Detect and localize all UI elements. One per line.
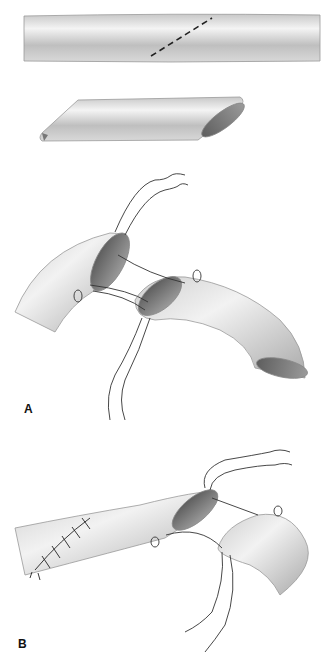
panel-b-right-vessel (218, 514, 308, 595)
panel-a-right-vessel (132, 269, 310, 382)
vessel-beveled-graft (40, 97, 249, 142)
panel-label-b: B (18, 637, 27, 651)
surgical-illustration: A B (0, 0, 333, 664)
panel-a-left-vessel (15, 227, 137, 332)
panel-b-left-vessel (15, 483, 224, 580)
illustration-svg (0, 0, 333, 664)
vessel-straight (24, 14, 320, 62)
panel-label-a: A (24, 402, 33, 416)
